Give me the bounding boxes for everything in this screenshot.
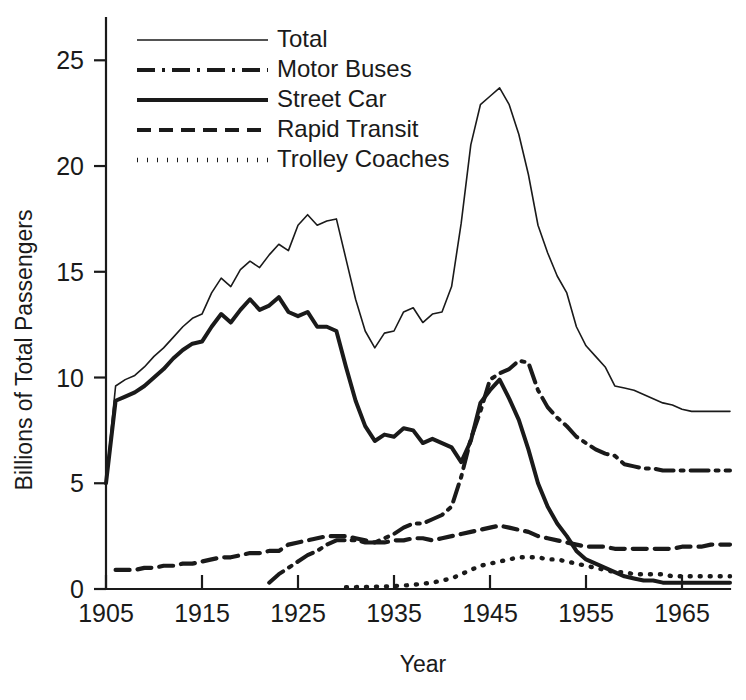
y-tick-label: 25 [56,46,84,74]
legend-label-motor-buses: Motor Buses [277,55,412,82]
y-tick-label: 20 [56,152,84,180]
x-tick-label: 1965 [654,599,710,627]
y-tick-label: 10 [56,364,84,392]
legend-label-street-car: Street Car [277,85,386,112]
legend-label-trolley-coaches: Trolley Coaches [277,145,450,172]
y-tick-label: 15 [56,258,84,286]
chart-figure: 0510152025 1905191519251935194519551965 … [0,0,746,700]
x-tick-label: 1935 [366,599,422,627]
y-axis-title: Billions of Total Passengers [11,210,37,491]
x-tick-label: 1915 [174,599,230,627]
legend-label-rapid-transit: Rapid Transit [277,115,419,142]
x-tick-label: 1955 [558,599,614,627]
x-axis-title: Year [400,651,447,677]
y-tick-label: 5 [70,469,84,497]
y-axis-ticks: 0510152025 [56,46,106,603]
x-axis-ticks: 1905191519251935194519551965 [78,575,710,627]
chart-canvas: 0510152025 1905191519251935194519551965 … [0,0,746,700]
series-line-rapid-transit [116,526,730,570]
x-tick-label: 1905 [78,599,134,627]
chart-legend: TotalMotor BusesStreet CarRapid TransitT… [137,25,450,172]
x-tick-label: 1925 [270,599,326,627]
legend-label-total: Total [277,25,328,52]
x-tick-label: 1945 [462,599,518,627]
axes-group [106,18,730,589]
